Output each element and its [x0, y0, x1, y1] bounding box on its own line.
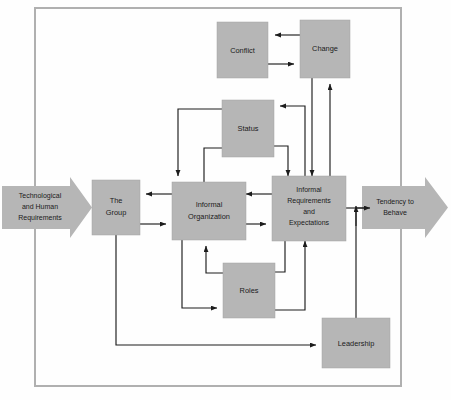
edge-status-to-informal-organization: [178, 109, 222, 176]
node-the-group[interactable]: The Group: [92, 180, 140, 235]
diagram-canvas: Technological and Human Requirements Ten…: [0, 0, 451, 400]
node-leadership[interactable]: Leadership: [322, 318, 390, 368]
edge-roles-to-informal-requirements: [275, 241, 305, 310]
node-roles-label: Roles: [240, 286, 259, 295]
output-arrow-label-line-1: Tendency to: [376, 198, 414, 206]
node-informal-requirements-label-line-4: Expectations: [289, 219, 330, 227]
node-change-label: Change: [312, 44, 338, 53]
input-arrow-technological-and-human-requirements: Technological and Human Requirements: [2, 177, 92, 238]
node-informal-organization[interactable]: Informal Organization: [172, 182, 246, 240]
node-leadership-label: Leadership: [338, 339, 375, 348]
edge-informal-requirements-to-status: [280, 106, 305, 182]
node-informal-requirements-label-line-2: Requirements: [287, 197, 331, 205]
edge-roles-to-informal-organization: [206, 246, 223, 273]
node-informal-organization-label-line-2: Organization: [188, 212, 230, 221]
node-informal-requirements-and-expectations[interactable]: Informal Requirements and Expectations: [272, 176, 346, 241]
node-status[interactable]: Status: [222, 100, 274, 157]
edge-informal-organization-to-roles: [182, 240, 217, 308]
node-informal-requirements-label-line-1: Informal: [296, 186, 322, 193]
input-arrow-label-line-1: Technological: [19, 192, 62, 200]
edge-group-to-leadership: [116, 235, 316, 345]
diagram-svg: Technological and Human Requirements Ten…: [0, 0, 451, 400]
output-arrow-tendency-to-behave: Tendency to Behave: [362, 177, 448, 238]
node-change[interactable]: Change: [300, 20, 350, 78]
node-informal-organization-label-line-1: Informal: [196, 200, 223, 209]
input-arrow-label-line-3: Requirements: [18, 214, 62, 222]
node-the-group-label-line-2: Group: [106, 208, 127, 217]
output-arrow-label-line-2: Behave: [383, 209, 407, 216]
node-informal-requirements-label-line-3: and: [303, 208, 315, 215]
edge-status-to-informal-requirements: [274, 146, 288, 176]
node-the-group-label-line-1: The: [110, 196, 123, 205]
node-conflict[interactable]: Conflict: [217, 22, 268, 78]
node-roles[interactable]: Roles: [223, 263, 275, 318]
node-conflict-label: Conflict: [230, 46, 255, 55]
input-arrow-label-line-2: and Human: [22, 203, 58, 210]
node-status-label: Status: [238, 124, 259, 133]
